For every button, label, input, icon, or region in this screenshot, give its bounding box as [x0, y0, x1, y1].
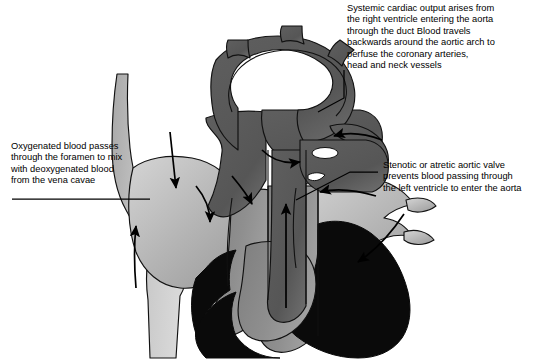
note-line: through the duct Blood travels — [347, 26, 543, 37]
note-line: from the vena cavae — [11, 175, 174, 186]
note-line: Systemic cardiac output arises from — [347, 3, 543, 14]
note-line: the right ventricle entering the aorta — [347, 14, 543, 25]
note-line: perfuse the coronary arteries, — [347, 49, 543, 60]
duct-lumen-highlight — [312, 148, 338, 159]
pulmonary-veins-shape — [404, 198, 436, 245]
oxygenated-blood-foramen-note: Oxygenated blood passes through the fora… — [11, 141, 174, 187]
aorta-descending-band-shape — [300, 140, 388, 192]
systemic-cardiac-output-note: Systemic cardiac output arises from the … — [347, 3, 543, 71]
diagram-canvas: Systemic cardiac output arises from the … — [0, 0, 548, 359]
note-line: with deoxygenated blood — [11, 164, 174, 175]
flow-arrow-ivc-up — [135, 226, 137, 288]
stenotic-atretic-aortic-valve-note: Stenotic or atretic aortic valve prevent… — [383, 160, 544, 194]
note-line: the left ventricle to enter the aorta — [383, 183, 544, 194]
note-line: backwards around the aortic arch to — [347, 37, 543, 48]
note-line: Oxygenated blood passes — [11, 141, 174, 152]
note-line: through the foramen to mix — [11, 152, 174, 163]
note-line: Stenotic or atretic aortic valve — [383, 160, 544, 171]
note-line: head and neck vessels — [347, 60, 543, 71]
note-line: prevents blood passing through — [383, 171, 544, 182]
